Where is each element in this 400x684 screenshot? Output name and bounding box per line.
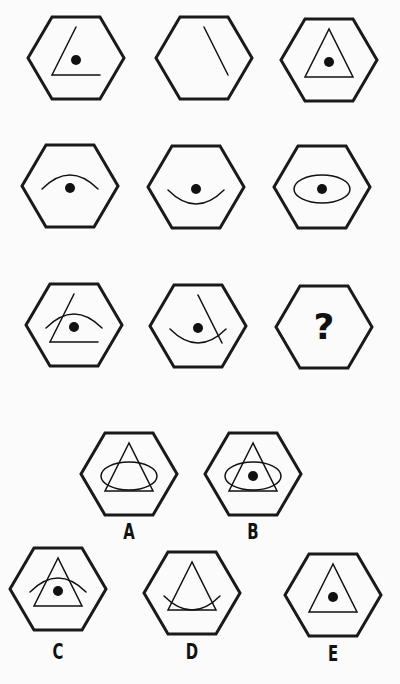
puzzle-stage: ? ABCDE [0, 0, 400, 684]
hexagon-frame [144, 552, 240, 634]
option-label-a[interactable]: A [123, 519, 134, 544]
option-b-figure[interactable] [205, 433, 301, 515]
matrix-cell-r3c3: ? [276, 286, 372, 368]
triangle-shape [105, 443, 153, 491]
dot-icon [53, 586, 63, 596]
option-a-figure[interactable] [81, 433, 177, 515]
option-e-figure[interactable] [285, 554, 381, 636]
matrix-cell-r1c2 [156, 17, 252, 99]
matrix-cell-r2c3 [274, 146, 370, 228]
left-edge-line [50, 294, 74, 342]
matrix-cell-r1c1 [28, 17, 124, 99]
matrix-cell-r3c2 [150, 285, 246, 367]
puzzle-canvas: ? [0, 0, 400, 684]
hexagon-frame [156, 17, 252, 99]
option-label-c[interactable]: C [53, 639, 64, 664]
hexagon-frame [81, 433, 177, 515]
triangle-shape [309, 564, 357, 612]
triangle-shape [305, 29, 353, 77]
matrix-cell-r2c1 [22, 145, 118, 227]
option-label-e[interactable]: E [328, 641, 338, 666]
option-label-b[interactable]: B [247, 519, 258, 544]
triangle-shape [168, 562, 216, 610]
dot-icon [317, 184, 327, 194]
option-label-d[interactable]: D [186, 639, 198, 664]
triangle-shape [34, 558, 82, 606]
option-d-figure[interactable] [144, 552, 240, 634]
dot-icon [324, 57, 334, 67]
dot-icon [193, 323, 203, 333]
dot-icon [248, 471, 258, 481]
left-edge-line [52, 27, 76, 75]
right-edge-line [204, 27, 228, 75]
dot-icon [65, 183, 75, 193]
matrix-cell-r1c3 [281, 19, 377, 101]
dot-icon [71, 55, 81, 65]
dot-icon [191, 184, 201, 194]
dot-icon [69, 322, 79, 332]
matrix-cell-r3c1 [26, 284, 122, 366]
option-c-figure[interactable] [10, 548, 106, 630]
bottom-arc-shape [164, 596, 220, 610]
triangle-shape [229, 443, 277, 491]
dot-icon [328, 592, 338, 602]
ellipse-shape [101, 462, 157, 490]
question-mark-icon: ? [314, 306, 335, 347]
matrix-cell-r2c2 [148, 146, 244, 228]
